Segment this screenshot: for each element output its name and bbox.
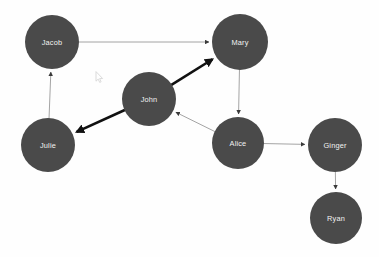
graph-node-alice[interactable]: Alice: [212, 117, 264, 169]
graph-canvas[interactable]: JacobMaryJohnJulieAliceGingerRyan: [0, 0, 379, 257]
graph-edge-alice-john[interactable]: [176, 112, 216, 132]
graph-node-julie[interactable]: Julie: [21, 118, 75, 172]
graph-edge-alice-ginger[interactable]: [263, 144, 305, 145]
node-circle-julie[interactable]: [21, 118, 75, 172]
graph-edge-john-mary[interactable]: [171, 59, 212, 85]
node-circle-ginger[interactable]: [308, 118, 362, 172]
graph-svg: JacobMaryJohnJulieAliceGingerRyan: [0, 0, 379, 257]
node-circle-jacob[interactable]: [25, 15, 79, 69]
graph-edge-mary-alice[interactable]: [239, 69, 240, 114]
graph-node-john[interactable]: John: [122, 72, 176, 126]
node-circle-john[interactable]: [122, 72, 176, 126]
graph-node-jacob[interactable]: Jacob: [25, 15, 79, 69]
graph-node-ryan[interactable]: Ryan: [310, 192, 362, 244]
graph-node-mary[interactable]: Mary: [212, 14, 268, 70]
graph-node-ginger[interactable]: Ginger: [308, 118, 362, 172]
node-circle-alice[interactable]: [212, 117, 264, 169]
edges-layer: [49, 42, 336, 189]
node-circle-ryan[interactable]: [310, 192, 362, 244]
graph-edge-john-julie[interactable]: [77, 110, 126, 132]
graph-edge-julie-jacob[interactable]: [49, 72, 51, 119]
node-circle-mary[interactable]: [212, 14, 268, 70]
nodes-layer: JacobMaryJohnJulieAliceGingerRyan: [21, 14, 362, 244]
